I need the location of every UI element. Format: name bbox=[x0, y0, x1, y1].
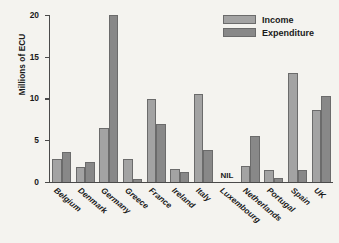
bar-expenditure bbox=[250, 136, 260, 182]
x-category-label: France bbox=[147, 186, 173, 210]
legend-swatch-income bbox=[223, 15, 256, 24]
bar-group bbox=[121, 12, 145, 182]
bar-group bbox=[74, 12, 98, 182]
y-tick-label: 10 bbox=[30, 93, 39, 103]
bar-income bbox=[288, 73, 298, 182]
bar-chart: Millions of ECU 05101520 NIL BelgiumDenm… bbox=[0, 0, 339, 243]
y-tick: 10 bbox=[45, 98, 50, 99]
y-tick-label: 5 bbox=[34, 135, 39, 145]
bar-expenditure bbox=[156, 124, 166, 182]
y-tick: 0 bbox=[45, 182, 50, 183]
x-category-label: Italy bbox=[194, 186, 212, 203]
bar-income bbox=[99, 128, 109, 182]
bar-group bbox=[191, 12, 215, 182]
legend-item-income: Income bbox=[223, 14, 314, 25]
bar-group bbox=[144, 12, 168, 182]
nil-annotation: NIL bbox=[220, 171, 233, 180]
bar-expenditure bbox=[321, 96, 331, 182]
x-category-label: Ireland bbox=[170, 186, 196, 210]
bar-expenditure bbox=[133, 179, 143, 182]
bar-expenditure bbox=[274, 178, 284, 182]
x-category-label: UK bbox=[312, 186, 327, 200]
x-axis-category-labels: BelgiumDenmarkGermanyGreeceFranceIreland… bbox=[50, 186, 334, 242]
legend-item-expenditure: Expenditure bbox=[223, 27, 314, 38]
bar-group bbox=[168, 12, 192, 182]
y-tick: 20 bbox=[45, 15, 50, 16]
y-tick: 15 bbox=[45, 57, 50, 58]
y-axis-title: Millions of ECU bbox=[18, 5, 27, 125]
bar-income bbox=[123, 159, 133, 182]
bar-income bbox=[241, 166, 251, 182]
y-tick: 5 bbox=[45, 140, 50, 141]
bar-expenditure bbox=[62, 152, 72, 182]
y-tick-label: 20 bbox=[30, 10, 39, 20]
bar-income bbox=[312, 110, 322, 182]
bar-income bbox=[76, 167, 86, 182]
chart-legend: Income Expenditure bbox=[223, 14, 314, 40]
bar-expenditure bbox=[109, 15, 119, 182]
y-tick-label: 15 bbox=[30, 52, 39, 62]
y-tick-label: 0 bbox=[34, 177, 39, 187]
bar-income bbox=[147, 99, 157, 183]
legend-swatch-expenditure bbox=[223, 28, 256, 37]
bar-group bbox=[97, 12, 121, 182]
legend-label-income: Income bbox=[262, 15, 294, 25]
bar-group bbox=[50, 12, 74, 182]
bar-income bbox=[52, 159, 62, 182]
legend-label-expenditure: Expenditure bbox=[262, 28, 314, 38]
bar-income bbox=[194, 94, 204, 183]
bar-income bbox=[264, 170, 274, 182]
bar-expenditure bbox=[85, 162, 95, 182]
bar-expenditure bbox=[203, 150, 213, 182]
bar-income bbox=[170, 169, 180, 182]
bar-expenditure bbox=[298, 170, 308, 182]
bar-expenditure bbox=[180, 172, 190, 182]
